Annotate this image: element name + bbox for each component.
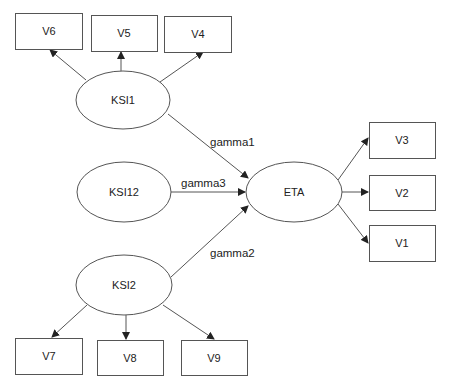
node-v6-label: V6 — [42, 25, 55, 37]
node-v3-label: V3 — [395, 134, 408, 146]
node-v5: V5 — [92, 16, 158, 52]
node-ksi2-label: KSI2 — [112, 279, 136, 291]
node-v9-label: V9 — [207, 352, 220, 364]
node-v5-label: V5 — [117, 27, 130, 39]
node-ksi1-label: KSI1 — [111, 94, 135, 106]
node-ksi12-label: KSI12 — [109, 186, 139, 198]
node-eta: ETA — [246, 162, 342, 222]
node-eta-label: ETA — [284, 186, 305, 198]
gamma1-label: gamma1 — [210, 136, 255, 148]
node-ksi12: KSI12 — [77, 162, 171, 222]
edge-ksi1-v4 — [160, 52, 203, 82]
edge-eta-v1 — [338, 204, 368, 243]
node-ksi2: KSI2 — [76, 255, 172, 315]
edge-ksi2-v7 — [52, 305, 87, 337]
node-v2-label: V2 — [395, 187, 408, 199]
node-v8-label: V8 — [123, 352, 136, 364]
node-v9: V9 — [182, 341, 248, 376]
edge-ksi2-v9 — [163, 305, 214, 339]
node-v1: V1 — [370, 226, 436, 262]
edge-ksi1-v6 — [50, 50, 86, 80]
edge-eta-v3 — [338, 138, 368, 180]
gamma3-label: gamma3 — [181, 177, 226, 189]
node-ksi1: KSI1 — [76, 71, 170, 129]
node-v4-label: V4 — [191, 28, 204, 40]
edge-gamma2 — [171, 206, 248, 277]
node-v3: V3 — [370, 123, 436, 159]
node-v4: V4 — [165, 17, 232, 53]
node-v8: V8 — [98, 341, 164, 376]
node-v1-label: V1 — [395, 237, 408, 249]
path-diagram: gamma1 gamma3 gamma2 V6 V5 V4 KSI1 KSI12… — [0, 0, 450, 391]
node-v7: V7 — [16, 339, 83, 375]
node-v2: V2 — [370, 176, 436, 211]
node-v7-label: V7 — [42, 350, 55, 362]
gamma2-label: gamma2 — [210, 247, 255, 259]
node-v6: V6 — [16, 14, 83, 50]
